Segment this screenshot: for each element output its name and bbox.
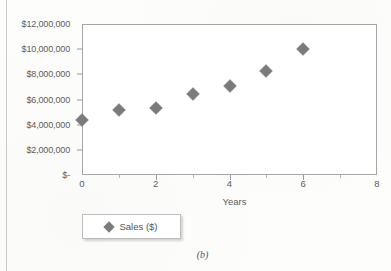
x-tick-mark [230, 175, 231, 180]
y-tick-label: $4,000,000 [26, 120, 70, 130]
y-tick-label: $12,000,000 [22, 19, 70, 29]
x-tick-mark [156, 175, 157, 180]
chart-legend[interactable]: Sales ($) [82, 214, 181, 239]
x-minor-tick-mark [340, 175, 341, 178]
x-tick-mark [303, 175, 304, 180]
figure-container: $12,000,000$10,000,000$8,000,000$6,000,0… [0, 0, 391, 271]
y-tick-label: $2,000,000 [26, 145, 70, 155]
y-tick-label: $- [62, 170, 70, 180]
y-axis: $12,000,000$10,000,000$8,000,000$6,000,0… [0, 0, 78, 271]
legend-label: Sales ($) [119, 221, 157, 232]
y-tick-mark [77, 99, 82, 100]
x-minor-tick-mark [119, 175, 120, 178]
legend-diamond-icon [104, 221, 115, 232]
x-tick-label: 0 [79, 178, 84, 189]
x-minor-tick-mark [193, 175, 194, 178]
y-tick-mark [77, 74, 82, 75]
x-minor-tick-mark [266, 175, 267, 178]
y-tick-label: $6,000,000 [26, 95, 70, 105]
x-axis-title: Years [0, 196, 391, 207]
y-tick-mark [77, 149, 82, 150]
x-tick-label: 8 [374, 178, 379, 189]
plot-area [82, 24, 377, 175]
y-tick-label: $10,000,000 [22, 44, 70, 54]
y-tick-mark [77, 49, 82, 50]
figure-caption: (b) [0, 249, 391, 260]
y-tick-label: $8,000,000 [26, 69, 70, 79]
